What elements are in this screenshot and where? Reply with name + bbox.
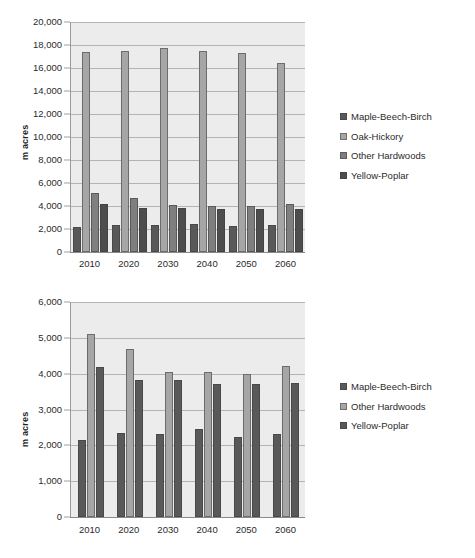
bar [178, 208, 186, 252]
y-tick-label: 8,000 [38, 155, 62, 165]
legend-swatch-icon [340, 172, 347, 179]
bar [151, 225, 159, 252]
bar [121, 51, 129, 252]
x-tick-label: 2020 [109, 524, 148, 535]
bar [234, 437, 242, 517]
y-tick-label: 6,000 [38, 297, 62, 307]
bar [268, 225, 276, 252]
y-tick-label: 16,000 [33, 63, 62, 73]
bar [78, 440, 86, 517]
y-tick-label: 20,000 [33, 17, 62, 27]
legend-label: Maple-Beech-Birch [351, 112, 432, 122]
bar-group [156, 302, 182, 517]
bar [169, 205, 177, 252]
bar-group [195, 302, 221, 517]
bar [286, 204, 294, 252]
x-tick-label: 2060 [266, 258, 305, 269]
bar-groups-bottom [71, 302, 305, 517]
bar [277, 63, 285, 252]
bar [139, 208, 147, 252]
bar [238, 53, 246, 252]
legend-item[interactable]: Other Hardwoods [340, 151, 432, 161]
bar [247, 206, 255, 252]
legend-swatch-icon [340, 133, 347, 140]
bar [252, 384, 260, 517]
bar [295, 209, 303, 252]
x-tick-label: 2040 [188, 258, 227, 269]
bar [117, 433, 125, 517]
bar [273, 434, 281, 517]
legend-label: Oak-Hickory [351, 132, 403, 142]
legend-label: Yellow-Poplar [351, 171, 409, 181]
chart-bottom: m acres 6,0005,0004,0003,0002,0001,0000 … [0, 282, 475, 558]
bar [204, 372, 212, 517]
bar-group [151, 22, 186, 252]
y-tick-label: 1,000 [38, 476, 62, 486]
bar-group [73, 22, 108, 252]
x-tick-label: 2030 [148, 524, 187, 535]
bar [229, 226, 237, 252]
y-tick-label: 0 [57, 247, 62, 257]
bar [195, 429, 203, 517]
plot-area-bottom [70, 302, 305, 517]
legend-swatch-icon [340, 383, 347, 390]
legend-item[interactable]: Yellow-Poplar [340, 171, 432, 181]
bar [199, 51, 207, 252]
x-tick-label: 2050 [227, 258, 266, 269]
bar [165, 372, 173, 517]
legend-label: Maple-Beech-Birch [351, 382, 432, 392]
bar [174, 380, 182, 517]
y-tick-label: 0 [57, 512, 62, 522]
x-axis-labels-top: 201020202030204020502060 [70, 258, 305, 269]
x-axis-line-bottom [70, 517, 305, 518]
y-tick-label: 2,000 [38, 441, 62, 451]
bar [135, 380, 143, 517]
y-tick-label: 14,000 [33, 86, 62, 96]
legend-item[interactable]: Maple-Beech-Birch [340, 382, 432, 392]
y-tick-label: 10,000 [33, 132, 62, 142]
bar [112, 225, 120, 252]
bar [73, 227, 81, 252]
x-tick-label: 2020 [109, 258, 148, 269]
bar [190, 224, 198, 252]
legend-swatch-icon [340, 113, 347, 120]
y-tick-label: 3,000 [38, 405, 62, 415]
bar-group [117, 302, 143, 517]
x-tick-label: 2040 [188, 524, 227, 535]
x-tick-label: 2030 [148, 258, 187, 269]
legend-label: Yellow-Poplar [351, 421, 409, 431]
y-axis-title-top: m acres [20, 125, 30, 160]
bar-group [273, 302, 299, 517]
x-axis-labels-bottom: 201020202030204020502060 [70, 524, 305, 535]
legend-swatch-icon [340, 422, 347, 429]
legend-top: Maple-Beech-BirchOak-HickoryOther Hardwo… [340, 112, 432, 190]
y-tick-label: 12,000 [33, 109, 62, 119]
bar [82, 52, 90, 252]
y-tick-label: 6,000 [38, 178, 62, 188]
bar [96, 367, 104, 518]
legend-item[interactable]: Oak-Hickory [340, 132, 432, 142]
legend-item[interactable]: Maple-Beech-Birch [340, 112, 432, 122]
y-tick-label: 4,000 [38, 201, 62, 211]
x-tick-label: 2010 [70, 258, 109, 269]
y-tick-label: 5,000 [38, 333, 62, 343]
bar [217, 209, 225, 252]
x-tick-label: 2010 [70, 524, 109, 535]
y-tick-label: 18,000 [33, 40, 62, 50]
bar [282, 366, 290, 517]
bar [87, 334, 95, 517]
legend-item[interactable]: Other Hardwoods [340, 402, 432, 412]
bar [126, 349, 134, 517]
bar [213, 384, 221, 517]
bar [100, 204, 108, 252]
bar [91, 193, 99, 252]
y-tick-label: 2,000 [38, 224, 62, 234]
bar [156, 434, 164, 517]
bar-group [78, 302, 104, 517]
y-axis-title-bottom: m acres [20, 412, 30, 447]
x-tick-label: 2050 [227, 524, 266, 535]
legend-item[interactable]: Yellow-Poplar [340, 421, 432, 431]
x-tick-label: 2060 [266, 524, 305, 535]
bar [256, 209, 264, 252]
bar-group [112, 22, 147, 252]
